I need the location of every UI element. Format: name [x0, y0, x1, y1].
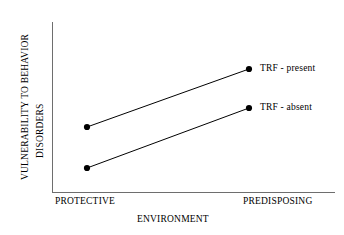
- series-line-absent: [87, 108, 249, 168]
- x-tick-label-protective: PROTECTIVE: [55, 196, 115, 206]
- data-point-absent-protective[interactable]: [84, 165, 90, 171]
- series-label-absent: TRF - absent: [260, 102, 312, 112]
- chart-figure: VULNERABILITY TO BEHAVIOR DISORDERS ENVI…: [0, 0, 344, 235]
- data-point-present-protective[interactable]: [84, 124, 90, 130]
- y-axis-label-line2: DISORDERS: [35, 103, 45, 158]
- x-tick-label-predisposing: PREDISPOSING: [243, 196, 312, 206]
- y-axis-label-line1: VULNERABILITY TO BEHAVIOR: [20, 34, 30, 180]
- data-point-present-predisposing[interactable]: [246, 66, 252, 72]
- series-line-present: [87, 69, 249, 127]
- data-point-absent-predisposing[interactable]: [246, 105, 252, 111]
- series-label-present: TRF - present: [260, 63, 315, 73]
- x-axis-label: ENVIRONMENT: [137, 214, 209, 224]
